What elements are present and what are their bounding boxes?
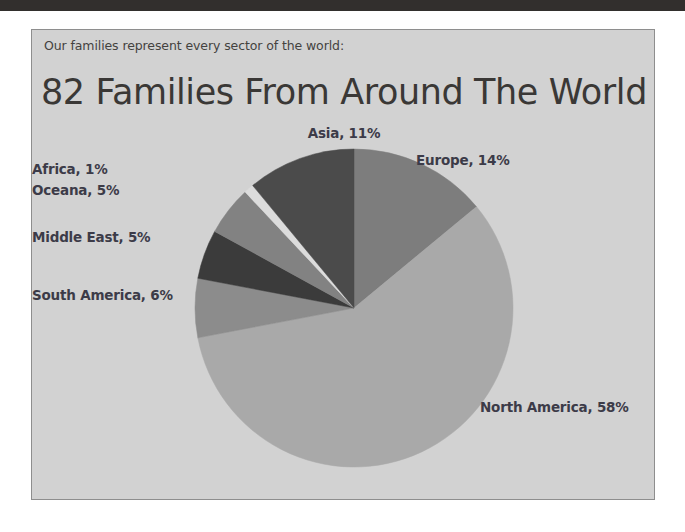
pie-label-north-america: North America, 58% xyxy=(480,399,629,415)
slide-panel: Our families represent every sector of t… xyxy=(31,29,655,500)
pie-label-africa: Africa, 1% xyxy=(32,161,286,177)
pie-label-oceana: Oceana, 5% xyxy=(32,182,275,198)
pie-label-asia: Asia, 11% xyxy=(264,125,424,141)
pie-chart: Asia, 11% Europe, 14% Africa, 1% Oceana,… xyxy=(32,30,656,501)
pie-chart-svg xyxy=(32,30,656,501)
pie-label-middle-east: Middle East, 5% xyxy=(32,229,245,245)
top-dark-bar xyxy=(0,0,685,11)
slide-screenshot: Our families represent every sector of t… xyxy=(0,0,685,532)
pie-label-europe: Europe, 14% xyxy=(416,152,510,168)
pie-label-south-america: South America, 6% xyxy=(32,287,237,303)
